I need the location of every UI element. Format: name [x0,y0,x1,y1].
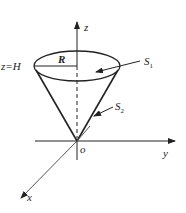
y-axis-label: y [162,147,168,159]
x-axis-label: x [26,191,32,203]
s1-pointer: S1 [96,55,154,72]
s1-label: S1 [144,55,154,70]
x-axis: x [21,141,77,203]
z-axis-label: z [83,21,89,33]
height-label: z=H [0,60,22,72]
y-axis: y [35,141,175,159]
cone-diagram: z y x o R z=H S1 S2 [0,0,186,213]
radius-label: R [57,53,65,65]
origin-label: o [80,143,86,155]
s2-label: S2 [115,100,125,115]
